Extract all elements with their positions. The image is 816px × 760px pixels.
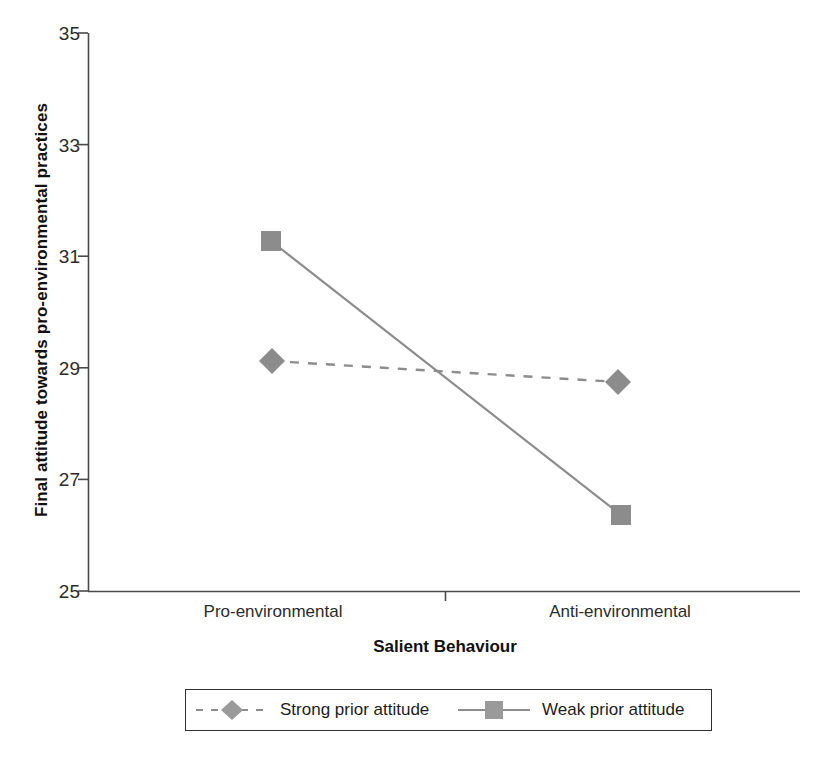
data-point-weak-pro-environmental: [261, 231, 281, 251]
chart-figure: Final attitude towards pro-environmental…: [0, 0, 816, 760]
legend-sample-weak: [456, 699, 532, 721]
series-line-strong-prior-attitude: [272, 361, 618, 382]
legend-entry-weak-prior-attitude: Weak prior attitude: [456, 690, 684, 730]
data-point-strong-anti-environmental: [605, 369, 631, 395]
legend-entry-strong-prior-attitude: Strong prior attitude: [194, 690, 429, 730]
data-point-weak-anti-environmental: [611, 505, 631, 525]
data-point-strong-pro-environmental: [259, 348, 285, 374]
legend-sample-strong: [194, 699, 270, 721]
legend-label-strong-prior-attitude: Strong prior attitude: [280, 700, 429, 720]
chart-legend: Strong prior attitude Weak prior attitud…: [185, 689, 712, 731]
plot-area: [0, 0, 816, 760]
square-marker-icon: [485, 701, 503, 719]
legend-label-weak-prior-attitude: Weak prior attitude: [542, 700, 684, 720]
diamond-marker-icon: [221, 700, 243, 720]
